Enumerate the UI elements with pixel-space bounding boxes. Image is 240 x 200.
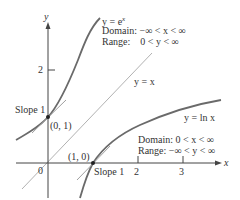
ln-range: Range: −∞ < y < ∞ — [138, 145, 215, 156]
x-tick-label-3: 3 — [179, 166, 184, 177]
exp-domain: Domain: −∞ < x < ∞ — [102, 25, 186, 36]
point-label-ln: (1, 0) — [68, 151, 90, 162]
y-axis-label: y — [44, 11, 48, 22]
y-tick-label-2: 2 — [38, 64, 43, 75]
y-axis-arrow-icon — [46, 22, 51, 29]
x-tick-label-2: 2 — [134, 166, 139, 177]
ln-domain: Domain: 0 < x < ∞ — [138, 134, 214, 145]
slope-label-ln: Slope 1 — [94, 166, 124, 177]
x-axis-label: x — [224, 157, 228, 168]
x-axis-arrow-icon — [215, 161, 222, 166]
point-0-1 — [46, 115, 50, 119]
origin-label: 0 — [38, 165, 43, 176]
identity-equation: y = x — [134, 76, 155, 87]
ln-equation: y = ln x — [184, 112, 215, 123]
point-label-exp: (0, 1) — [50, 120, 72, 131]
slope-label-exp: Slope 1 — [15, 104, 45, 115]
point-1-0 — [91, 161, 95, 165]
exp-range: Range:0 < y < ∞ — [102, 36, 179, 47]
